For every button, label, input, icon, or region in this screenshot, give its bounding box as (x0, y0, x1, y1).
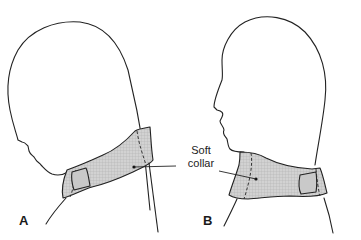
panel-label-a: A (19, 213, 28, 228)
panel-a-front-neck-line (46, 198, 66, 224)
soft-collar-illustration (0, 0, 361, 240)
panel-a-back-neck-line (149, 163, 158, 232)
panel-label-b: B (203, 213, 212, 228)
panel-b-back-neck-line (324, 198, 333, 233)
panel-b-head-outline (214, 17, 326, 165)
soft-collar-callout: Soft collar (180, 144, 222, 170)
panel-b-front-neck-line (224, 199, 237, 226)
panel-b-velcro-tab (299, 172, 317, 194)
panel-a-figure (8, 22, 176, 232)
callout-line-1: Soft (180, 144, 222, 157)
panel-b-figure (214, 17, 333, 233)
panel-a-velcro-tab (72, 168, 90, 190)
callout-line-2: collar (180, 157, 222, 170)
